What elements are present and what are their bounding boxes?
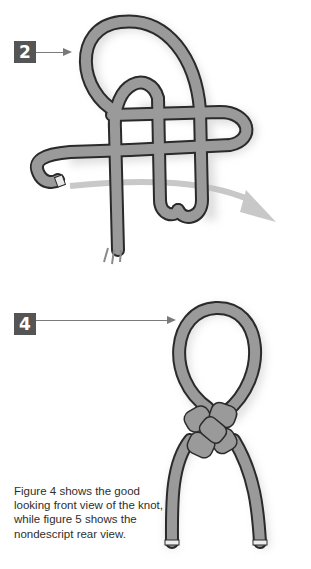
figure-caption: Figure 4 shows the good looking front vi… xyxy=(14,484,164,541)
knot-illustration-step-4 xyxy=(150,290,290,569)
step-badge-4: 4 xyxy=(14,313,36,335)
knot-illustration-step-2 xyxy=(0,0,311,290)
